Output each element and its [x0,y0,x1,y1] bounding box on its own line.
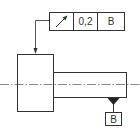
leader-line [36,21,50,50]
datum-feature-symbol: B [106,98,122,126]
feature-control-frame: 0,2 B [50,13,125,31]
datum-reference: B [108,16,115,27]
datum-triangle-icon [108,98,120,105]
gdt-diagram: 0,2 B B [0,0,140,134]
large-diameter-part [18,55,54,112]
tolerance-value: 0,2 [79,16,93,27]
datum-label: B [110,114,117,125]
leader-arrowhead-icon [34,48,38,54]
